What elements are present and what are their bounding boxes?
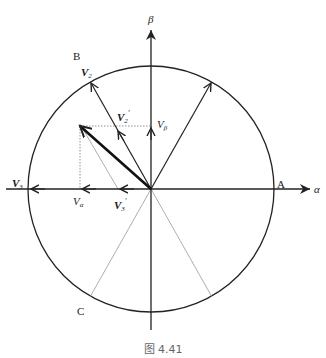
v3-subscript: 3 bbox=[19, 183, 23, 191]
v2-label: V2 bbox=[81, 67, 92, 80]
v2-prime-label: V2' bbox=[117, 110, 130, 125]
vbeta-letter: V bbox=[157, 118, 164, 130]
valpha-label: Vα bbox=[73, 196, 83, 209]
v3-prime-label: V3' bbox=[114, 198, 127, 213]
vbeta-subscript: β bbox=[164, 124, 168, 132]
v3-label: V3 bbox=[12, 178, 23, 191]
figure-caption: 图 4.41 bbox=[0, 340, 326, 356]
v3p-subscript: 3 bbox=[121, 205, 125, 213]
valpha-subscript: α bbox=[80, 201, 84, 209]
v2-subscript: 2 bbox=[88, 72, 92, 80]
vbeta-label: Vβ bbox=[157, 119, 167, 132]
v3p-prime: ' bbox=[125, 197, 127, 206]
v2p-subscript: 2 bbox=[124, 117, 128, 125]
v2-prime-marker bbox=[118, 131, 124, 141]
reference-vector bbox=[80, 126, 151, 189]
v2p-prime: ' bbox=[128, 109, 130, 118]
valpha-letter: V bbox=[73, 195, 80, 207]
alpha-axis-label: α bbox=[314, 184, 320, 195]
v3-construction-line bbox=[80, 124, 118, 189]
v1-vector bbox=[151, 83, 211, 189]
point-b-label: B bbox=[73, 51, 80, 62]
point-a-label: A bbox=[277, 179, 285, 190]
beta-axis-label: β bbox=[148, 14, 153, 25]
sector-boundary-lower-right bbox=[151, 189, 212, 297]
point-c-label: C bbox=[77, 306, 84, 317]
